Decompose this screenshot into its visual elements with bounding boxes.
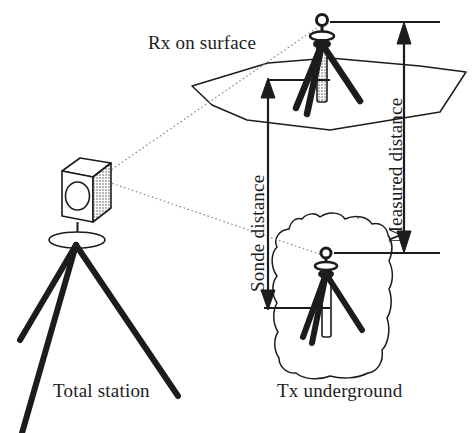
label-sonde-distance: Sonde distance xyxy=(248,175,267,292)
diagram-canvas: Rx on surface Total station Tx undergrou… xyxy=(0,0,473,433)
underground-rock-mass xyxy=(272,213,392,379)
label-rx-on-surface: Rx on surface xyxy=(148,33,256,52)
label-tx-underground: Tx underground xyxy=(277,381,402,400)
total-station-tripod xyxy=(20,245,178,433)
ground-surface-plane xyxy=(192,58,466,130)
tx-tripod xyxy=(303,248,362,343)
total-station-box xyxy=(49,158,111,248)
label-total-station: Total station xyxy=(53,381,150,400)
rx-tripod xyxy=(296,15,360,115)
sight-line-to-tx xyxy=(108,182,322,255)
label-measured-distance: Measured distance xyxy=(386,98,405,243)
